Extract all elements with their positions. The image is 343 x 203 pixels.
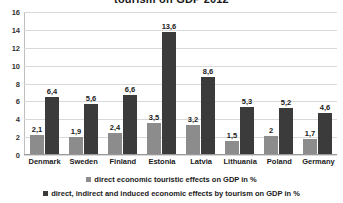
x-axis-category-label: Sweden <box>64 157 103 166</box>
bar-group: 3,28,6 <box>181 12 220 154</box>
bar-value-label: 1,7 <box>305 129 315 138</box>
bar: 2 <box>264 136 278 154</box>
bar-value-label: 5,3 <box>242 97 252 106</box>
x-axis-category-label: Germany <box>299 157 338 166</box>
y-axis-tick-label: 12 <box>12 43 20 52</box>
legend-item: direct, indirect and induced economic ef… <box>0 186 343 200</box>
x-axis-category-label: Finland <box>103 157 142 166</box>
y-axis-tick-label: 6 <box>16 97 20 106</box>
y-axis-tick-label: 8 <box>16 79 20 88</box>
bar-group: 1,55,3 <box>220 12 259 154</box>
legend-swatch-icon <box>43 191 48 196</box>
bar-value-label: 8,6 <box>203 67 213 76</box>
y-axis-tick-label: 16 <box>12 8 20 17</box>
bar-value-label: 6,4 <box>47 87 57 96</box>
bar-value-label: 2,1 <box>32 125 42 134</box>
y-axis-tick-label: 10 <box>12 61 20 70</box>
x-axis-category-label: Lithuania <box>221 157 260 166</box>
bar-group: 1,74,6 <box>298 12 337 154</box>
bar-group: 3,513,6 <box>142 12 181 154</box>
bar: 3,5 <box>147 123 161 154</box>
bar-value-label: 3,5 <box>149 113 159 122</box>
chart-legend: direct economic touristic effects on GDP… <box>0 172 343 200</box>
bar-group: 2,16,4 <box>25 12 64 154</box>
bar-value-label: 1,5 <box>227 131 237 140</box>
bar-value-label: 6,6 <box>125 85 135 94</box>
bar: 13,6 <box>162 32 176 154</box>
plot-area: 0246810121416 2,16,41,95,62,46,63,513,63… <box>24 12 337 155</box>
bar: 3,2 <box>186 125 200 154</box>
y-axis-tick-label: 2 <box>16 133 20 142</box>
bar: 1,7 <box>303 139 317 154</box>
bar-value-label: 5,6 <box>86 94 96 103</box>
bar-value-label: 5,2 <box>281 98 291 107</box>
x-axis-category-label: Latvia <box>182 157 221 166</box>
bar: 6,6 <box>123 95 137 154</box>
bar-value-label: 2,4 <box>110 123 120 132</box>
legend-item: direct economic touristic effects on GDP… <box>0 172 343 186</box>
bar: 1,5 <box>225 141 239 154</box>
gridline: 0 <box>24 155 337 156</box>
y-axis-tick-label: 0 <box>16 151 20 160</box>
bar-value-label: 1,9 <box>71 127 81 136</box>
chart-title: tourism on GDP 2012 <box>0 0 343 3</box>
bar-group: 2,46,6 <box>103 12 142 154</box>
bar: 5,2 <box>279 108 293 154</box>
bar-value-label: 2 <box>269 126 273 135</box>
bar-value-label: 4,6 <box>320 103 330 112</box>
legend-label: direct, indirect and induced economic ef… <box>51 189 300 198</box>
bar: 4,6 <box>318 113 332 154</box>
bar: 5,3 <box>240 107 254 154</box>
bar-group: 1,95,6 <box>64 12 103 154</box>
bar-group: 25,2 <box>259 12 298 154</box>
bar-chart: tourism on GDP 2012 0246810121416 2,16,4… <box>0 0 343 203</box>
y-axis-tick-label: 4 <box>16 115 20 124</box>
x-axis-labels: DenmarkSwedenFinlandEstoniaLatviaLithuan… <box>25 157 338 166</box>
bar: 1,9 <box>69 137 83 154</box>
bar: 2,4 <box>108 133 122 154</box>
legend-label: direct economic touristic effects on GDP… <box>94 175 256 184</box>
x-axis-category-label: Estonia <box>142 157 181 166</box>
y-axis-tick-label: 14 <box>12 25 20 34</box>
bar: 8,6 <box>201 77 215 154</box>
bar-value-label: 3,2 <box>188 115 198 124</box>
bar-value-label: 13,6 <box>162 22 177 31</box>
x-axis-category-label: Poland <box>260 157 299 166</box>
legend-swatch-icon <box>86 177 91 182</box>
bar: 2,1 <box>30 135 44 154</box>
bar: 5,6 <box>84 104 98 154</box>
bar-groups: 2,16,41,95,62,46,63,513,63,28,61,55,325,… <box>25 12 337 154</box>
bar: 6,4 <box>45 97 59 154</box>
x-axis-category-label: Denmark <box>25 157 64 166</box>
